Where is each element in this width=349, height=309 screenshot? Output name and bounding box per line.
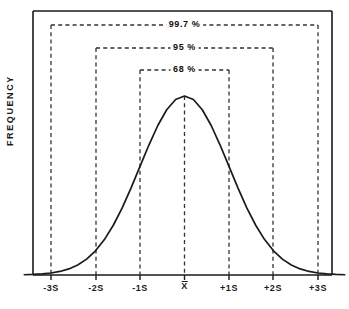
bracket-label-997: 99.7 % <box>166 19 204 29</box>
y-axis-label: FREQUENCY <box>5 16 15 146</box>
xtick-label-minus1s: -1S <box>132 283 148 293</box>
mean-symbol: X <box>181 281 188 291</box>
xtick-label-plus3s: +3S <box>309 283 327 293</box>
xtick-label-minus3s: -3S <box>43 283 59 293</box>
bracket-label-95: 95 % <box>170 42 199 52</box>
xtick-label-plus1s: +1S <box>220 283 238 293</box>
xtick-label-plus2s: +2S <box>264 283 282 293</box>
xtick-label-mean: X <box>181 281 188 291</box>
xtick-label-minus2s: -2S <box>88 283 104 293</box>
bracket-label-68: 68 % <box>170 64 199 74</box>
